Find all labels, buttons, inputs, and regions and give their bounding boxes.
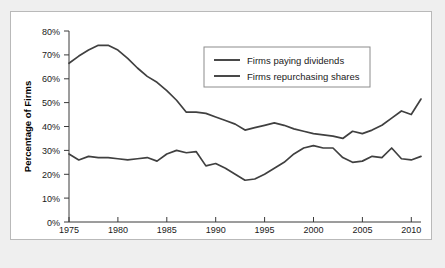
x-tick-label: 1980	[108, 225, 128, 235]
y-tick-label: 40%	[42, 122, 60, 132]
x-tick-label: 1975	[59, 225, 79, 235]
y-tick-label: 30%	[42, 146, 60, 156]
line-chart: 80% 70% 60% 50% 40% 30% 20% 10% 0%	[11, 12, 431, 239]
x-tick-label: 1995	[255, 225, 275, 235]
x-tick-label: 1985	[157, 225, 177, 235]
legend-label-repurchases: Firms repurchasing shares	[247, 71, 360, 82]
y-tick-label: 60%	[42, 74, 60, 84]
y-tick-label: 70%	[42, 50, 60, 60]
legend-label-dividends: Firms paying dividends	[247, 55, 344, 66]
y-tick-label: 10%	[42, 194, 60, 204]
y-tick-label: 80%	[42, 27, 60, 37]
y-axis-ticks	[64, 31, 69, 222]
x-tick-label: 2000	[303, 225, 323, 235]
x-axis-tick-labels: 1975 1980 1985 1990 1995 2000 2005 2010	[59, 225, 421, 235]
page-background: 80% 70% 60% 50% 40% 30% 20% 10% 0%	[0, 0, 445, 268]
x-tick-label: 2005	[352, 225, 372, 235]
figure-frame: 80% 70% 60% 50% 40% 30% 20% 10% 0%	[10, 11, 432, 240]
x-axis-ticks	[69, 217, 411, 222]
y-axis-tick-labels: 80% 70% 60% 50% 40% 30% 20% 10% 0%	[42, 27, 60, 228]
chart-legend: Firms paying dividends Firms repurchasin…	[204, 47, 370, 87]
x-tick-label: 2010	[401, 225, 421, 235]
series-line-firms-repurchasing-shares	[69, 146, 421, 181]
y-tick-label: 50%	[42, 98, 60, 108]
x-tick-label: 1990	[206, 225, 226, 235]
y-axis-title: Percentage of Firms	[22, 81, 33, 172]
y-tick-label: 20%	[42, 170, 60, 180]
x-axis-title: Year	[235, 237, 255, 239]
